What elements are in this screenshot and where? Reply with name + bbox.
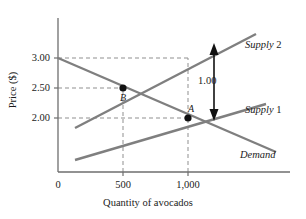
y-tick-label-250: 2.50 [16,83,50,94]
y-tick-label-200: 2.00 [16,113,50,124]
axis-ticks [54,58,188,176]
arrowhead-up [210,43,219,55]
supply1-label-word: Supply [245,104,274,115]
supply2-curve-label: Supply 2 [245,40,281,51]
supply1-label-number: 1 [276,104,281,115]
y-tick-label-300: 3.00 [16,53,50,64]
point-label-a: A [188,104,194,114]
point-label-b: B [120,93,126,103]
point-marker-b [119,84,126,91]
supply1-curve-label: Supply 1 [245,105,281,116]
x-tick-label-1000: 1,000 [168,180,208,191]
point-marker-a [184,114,191,121]
demand-curve-label: Demand [240,150,276,161]
origin-label: 0 [51,180,65,191]
demand-curve [58,58,276,152]
guide-lines [58,58,188,172]
supply2-label-word: Supply [245,39,274,50]
chart-figure: Price ($) 3.00 2.50 2.00 0 500 1,000 Qua… [0,0,306,219]
x-axis-title: Quantity of avocados [63,198,233,209]
x-tick-label-500: 500 [103,180,143,191]
curves [58,34,276,160]
supply2-label-number: 2 [276,39,281,50]
price-gap-label: 1.00 [198,76,216,87]
